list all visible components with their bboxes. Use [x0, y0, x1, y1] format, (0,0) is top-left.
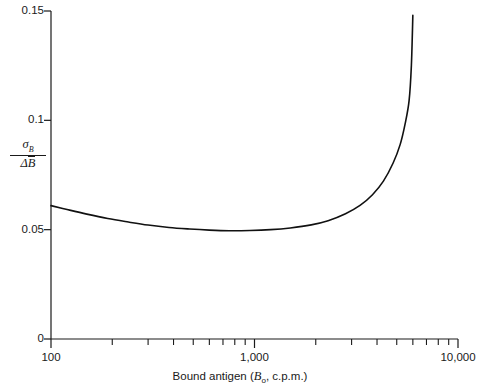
x-axis-minor-ticks: [112, 339, 448, 345]
x-tick-label-2: 10,000: [428, 352, 480, 364]
y-axis-label-bbar: B: [28, 157, 36, 170]
data-series-group: [51, 15, 413, 230]
y-axis-label-sigma-sub: B: [29, 145, 34, 154]
y-tick-label-1: 0.05: [0, 224, 44, 236]
plot-canvas: [0, 0, 480, 390]
axis-lines: [51, 11, 458, 339]
x-axis-label-main: Bound antigen (: [173, 370, 254, 382]
series-line-0: [51, 15, 413, 230]
x-axis-label-tail: , c.p.m.): [266, 370, 308, 382]
y-axis-ticks: [44, 11, 51, 339]
y-tick-label-2: 0.1: [0, 114, 44, 126]
y-axis-label-delta: Δ: [21, 156, 28, 170]
x-tick-label-1: 1,000: [225, 352, 285, 364]
y-axis-label: σB ΔB: [10, 138, 46, 170]
x-axis-label: Bound antigen (Bo, c.p.m.): [0, 369, 480, 385]
chart-figure: σB ΔB Bound antigen (Bo, c.p.m.) 00.050.…: [0, 0, 480, 390]
y-tick-label-3: 0.15: [0, 5, 44, 17]
y-tick-label-0: 0: [0, 333, 44, 345]
x-tick-label-0: 100: [21, 352, 81, 364]
